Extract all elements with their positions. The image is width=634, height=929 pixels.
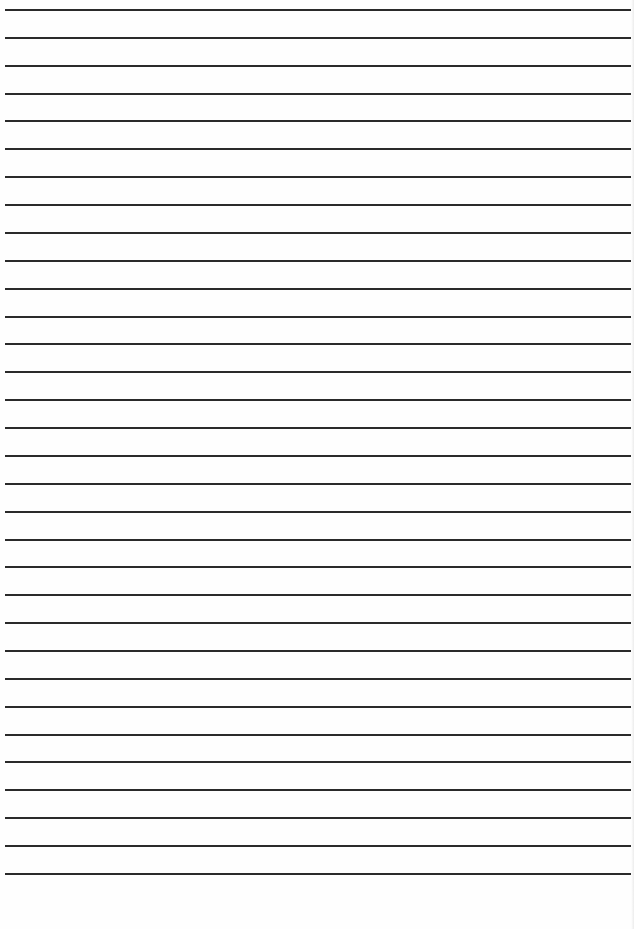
ruled-line [5, 93, 631, 95]
ruled-line [5, 343, 631, 345]
ruled-line [5, 845, 631, 847]
ruled-line [5, 371, 631, 373]
ruled-line [5, 706, 631, 708]
ruled-line [5, 288, 631, 290]
ruled-line [5, 511, 631, 513]
ruled-line [5, 483, 631, 485]
ruled-line [5, 176, 631, 178]
ruled-line [5, 120, 631, 122]
ruled-line [5, 678, 631, 680]
ruled-line [5, 734, 631, 736]
ruled-line [5, 316, 631, 318]
ruled-line [5, 594, 631, 596]
lined-paper-page [0, 0, 634, 929]
ruled-line [5, 399, 631, 401]
ruled-line [5, 204, 631, 206]
ruled-line [5, 9, 631, 11]
ruled-line [5, 260, 631, 262]
ruled-line [5, 37, 631, 39]
ruled-line [5, 566, 631, 568]
ruled-line [5, 761, 631, 763]
ruled-line [5, 455, 631, 457]
ruled-line [5, 232, 631, 234]
ruled-line [5, 873, 631, 875]
ruled-line [5, 789, 631, 791]
ruled-line [5, 65, 631, 67]
ruled-line [5, 539, 631, 541]
ruled-line [5, 427, 631, 429]
ruled-line [5, 622, 631, 624]
ruled-line [5, 148, 631, 150]
ruled-line [5, 650, 631, 652]
ruled-line [5, 817, 631, 819]
